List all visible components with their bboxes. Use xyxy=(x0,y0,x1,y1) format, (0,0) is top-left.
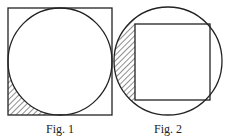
geometry-figures xyxy=(0,0,227,140)
fig1-hatched-corner xyxy=(8,62,60,116)
figure-1 xyxy=(8,8,112,115)
figure-2 xyxy=(114,7,222,115)
fig1-caption: Fig. 1 xyxy=(30,122,90,137)
fig2-caption: Fig. 2 xyxy=(138,122,198,137)
